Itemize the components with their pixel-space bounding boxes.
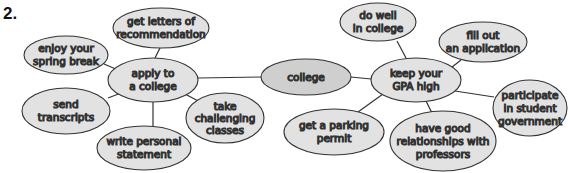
node-college: college: [261, 59, 351, 95]
line-college-gpa: [351, 77, 371, 79]
svg-text:relationships with: relationships with: [397, 135, 490, 147]
line-gpa-parking: [358, 94, 383, 112]
svg-text:do well: do well: [359, 9, 396, 21]
svg-text:apply to: apply to: [132, 67, 175, 79]
svg-text:transcripts: transcripts: [38, 111, 94, 123]
svg-text:government: government: [498, 115, 562, 127]
svg-text:send: send: [53, 98, 78, 110]
svg-text:fill out: fill out: [467, 29, 500, 41]
line-apply-letters: [155, 48, 160, 58]
svg-text:statement: statement: [117, 148, 171, 160]
svg-text:enjoy your: enjoy your: [38, 42, 94, 54]
line-gpa-government: [455, 91, 494, 97]
node-participate-in-student-government: participate in student government: [493, 80, 567, 136]
svg-text:get a parking: get a parking: [299, 119, 369, 131]
svg-text:classes: classes: [206, 124, 244, 136]
svg-text:a college: a college: [129, 80, 176, 92]
node-send-transcripts: send transcripts: [22, 88, 110, 134]
line-gpa-dowell: [397, 41, 406, 58]
svg-text:keep your: keep your: [390, 67, 443, 79]
svg-text:an application: an application: [446, 42, 520, 54]
node-keep-your-gpa-high: keep your GPA high: [371, 58, 461, 102]
node-get-letters-of-recommendation: get letters of recommendation: [113, 8, 209, 48]
svg-text:challenging: challenging: [195, 112, 256, 124]
svg-text:GPA high: GPA high: [392, 80, 439, 92]
node-fill-out-an-application: fill out an application: [439, 22, 527, 62]
svg-text:take: take: [214, 100, 237, 112]
svg-text:recommendation: recommendation: [116, 28, 206, 40]
node-do-well-in-college: do well in college: [340, 3, 416, 41]
node-college-text: college: [287, 71, 325, 83]
line-apply-college: [198, 77, 261, 78]
svg-text:permit: permit: [317, 132, 352, 144]
node-enjoy-your-spring-break: enjoy your spring break: [24, 36, 108, 74]
node-get-a-parking-permit: get a parking permit: [284, 109, 384, 155]
svg-text:in student: in student: [503, 102, 556, 114]
svg-text:write personal: write personal: [106, 135, 181, 147]
concept-map: college apply to a college keep your GPA…: [0, 0, 568, 173]
node-have-good-relationships-with-professors: have good relationships with professors: [390, 111, 496, 171]
svg-text:spring break: spring break: [33, 55, 100, 67]
node-apply-to-a-college: apply to a college: [108, 58, 198, 102]
svg-text:get letters of: get letters of: [127, 15, 195, 27]
node-write-personal-statement: write personal statement: [97, 126, 191, 170]
svg-text:have good: have good: [415, 122, 470, 134]
svg-text:in college: in college: [353, 22, 404, 34]
node-take-challenging-classes: take challenging classes: [186, 93, 264, 143]
svg-text:participate: participate: [502, 89, 559, 101]
svg-text:professors: professors: [416, 148, 470, 160]
